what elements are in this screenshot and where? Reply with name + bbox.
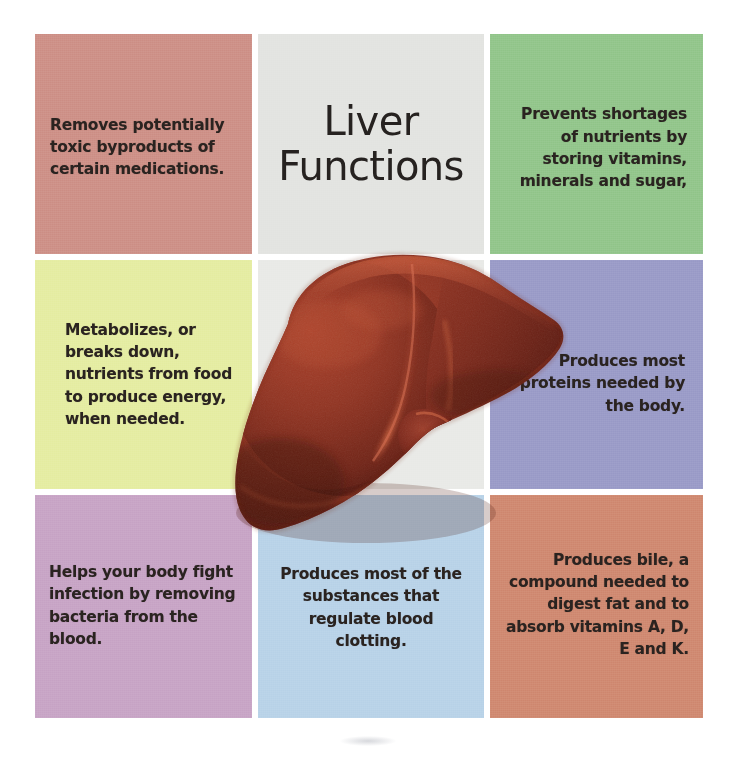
cell-text-blood-clotting: Produces most of the substances that reg… [258,563,484,652]
scan-artifact-smudge [340,736,396,746]
page-title: Liver Functions [258,99,484,189]
cell-liver-image-backdrop [258,260,484,489]
liver-functions-infographic: Removes potentially toxic byproducts of … [0,0,734,758]
cell-stores-nutrients: Prevents shortages of nutrients by stori… [490,34,703,254]
functions-grid: Removes potentially toxic byproducts of … [35,34,697,718]
cell-text-removes-toxins: Removes potentially toxic byproducts of … [35,108,252,181]
cell-text-stores-nutrients: Prevents shortages of nutrients by stori… [490,95,703,192]
cell-text-produces-bile: Produces bile, a compound needed to dige… [490,549,703,661]
cell-metabolizes-nutrients: Metabolizes, or breaks down, nutrients f… [35,260,252,489]
cell-fights-infection: Helps your body fight infection by remov… [35,495,252,718]
cell-text-produces-proteins: Produces most proteins needed by the bod… [490,350,703,417]
page-title-line-1: Liver [323,98,418,144]
cell-title: Liver Functions [258,34,484,254]
cell-removes-toxins: Removes potentially toxic byproducts of … [35,34,252,254]
page-title-line-2: Functions [278,143,464,189]
cell-text-fights-infection: Helps your body fight infection by remov… [35,561,252,650]
cell-produces-proteins: Produces most proteins needed by the bod… [490,260,703,489]
cell-text-metabolizes-nutrients: Metabolizes, or breaks down, nutrients f… [35,319,252,431]
cell-blood-clotting: Produces most of the substances that reg… [258,495,484,718]
cell-produces-bile: Produces bile, a compound needed to dige… [490,495,703,718]
